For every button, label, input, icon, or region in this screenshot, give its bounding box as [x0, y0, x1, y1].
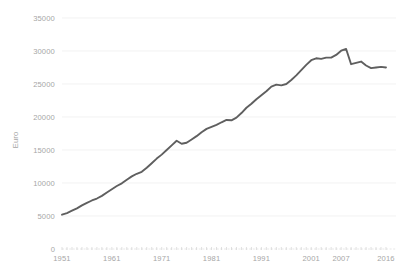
x-tick-label: 2001 [302, 254, 320, 263]
y-axis-title-group: Euro [11, 132, 20, 149]
series-group [62, 49, 386, 215]
x-tick-labels-group: 19511961197119811991200120072016 [53, 254, 395, 263]
x-tick-label: 1981 [203, 254, 221, 263]
y-axis-title: Euro [11, 132, 20, 149]
y-tick-label: 20000 [33, 113, 55, 122]
y-tick-label: 10000 [33, 179, 55, 188]
y-tick-label: 35000 [33, 14, 55, 23]
chart-canvas: 05000100001500020000250003000035000 1951… [0, 0, 398, 273]
x-tick-label: 1961 [103, 254, 121, 263]
y-tick-label: 30000 [33, 47, 55, 56]
y-tick-labels-group: 05000100001500020000250003000035000 [33, 14, 55, 254]
x-tick-marks-group [62, 247, 386, 250]
y-tick-label: 5000 [38, 212, 56, 221]
y-tick-label: 0 [51, 245, 55, 254]
y-tick-label: 15000 [33, 146, 55, 155]
y-tick-label: 25000 [33, 80, 55, 89]
x-tick-label: 1971 [153, 254, 171, 263]
x-tick-label: 2016 [377, 254, 395, 263]
series-line-0 [62, 49, 386, 215]
x-tick-label: 2007 [332, 254, 350, 263]
line-chart: 05000100001500020000250003000035000 1951… [0, 0, 398, 273]
x-tick-label: 1951 [53, 254, 71, 263]
gridlines-group [62, 18, 396, 216]
x-tick-label: 1991 [253, 254, 271, 263]
